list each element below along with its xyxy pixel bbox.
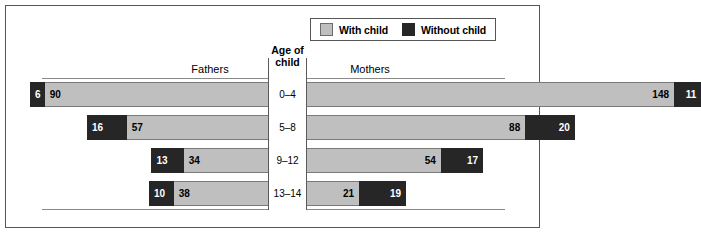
bar-segment: 19	[359, 181, 406, 206]
bar-mothers: 5417	[307, 148, 483, 173]
bar-fathers: 1657	[87, 115, 268, 140]
bar-segment-value: 11	[686, 89, 697, 100]
bar-segment-value: 16	[92, 122, 103, 133]
bar-segment-value: 17	[467, 155, 478, 166]
bar-segment: 16	[87, 115, 127, 140]
bar-segment: 6	[30, 82, 45, 107]
bar-segment-value: 13	[156, 155, 167, 166]
bar-segment: 17	[441, 148, 483, 173]
bar-segment: 13	[151, 148, 183, 173]
category-label: 13–14	[268, 181, 307, 206]
bar-segment: 54	[307, 148, 441, 173]
bar-segment-value: 148	[652, 89, 669, 100]
bar-segment: 57	[127, 115, 268, 140]
bar-mothers: 14811	[307, 82, 701, 107]
bar-fathers: 1038	[149, 181, 268, 206]
bar-segment-value: 90	[50, 89, 61, 100]
bar-segment: 148	[307, 82, 674, 107]
bar-fathers: 1334	[151, 148, 268, 173]
bar-fathers: 690	[30, 82, 268, 107]
bar-segment-value: 54	[425, 155, 436, 166]
bar-segment: 88	[307, 115, 525, 140]
bar-segment: 20	[525, 115, 575, 140]
bar-segment-value: 20	[559, 122, 570, 133]
chart-row: 133454179–12	[0, 148, 546, 173]
bar-segment: 10	[149, 181, 174, 206]
bar-segment-value: 6	[35, 89, 41, 100]
category-label: 9–12	[268, 148, 307, 173]
category-label: 0–4	[268, 82, 307, 107]
bar-segment-value: 38	[179, 188, 190, 199]
category-label: 5–8	[268, 115, 307, 140]
bar-segment-value: 19	[390, 188, 401, 199]
chart-row: 1038211913–14	[0, 181, 546, 206]
bar-segment: 11	[674, 82, 701, 107]
bar-segment-value: 34	[189, 155, 200, 166]
bar-segment-value: 57	[132, 122, 143, 133]
bar-segment-value: 10	[154, 188, 165, 199]
bar-segment: 34	[184, 148, 268, 173]
bar-segment: 38	[174, 181, 268, 206]
bar-mothers: 2119	[307, 181, 406, 206]
chart-row: 165788205–8	[0, 115, 546, 140]
bar-segment-value: 21	[343, 188, 354, 199]
bar-segment: 90	[45, 82, 268, 107]
bar-segment-value: 88	[509, 122, 520, 133]
chart-row: 690148110–4	[0, 82, 546, 107]
bar-mothers: 8820	[307, 115, 575, 140]
bar-segment: 21	[307, 181, 359, 206]
